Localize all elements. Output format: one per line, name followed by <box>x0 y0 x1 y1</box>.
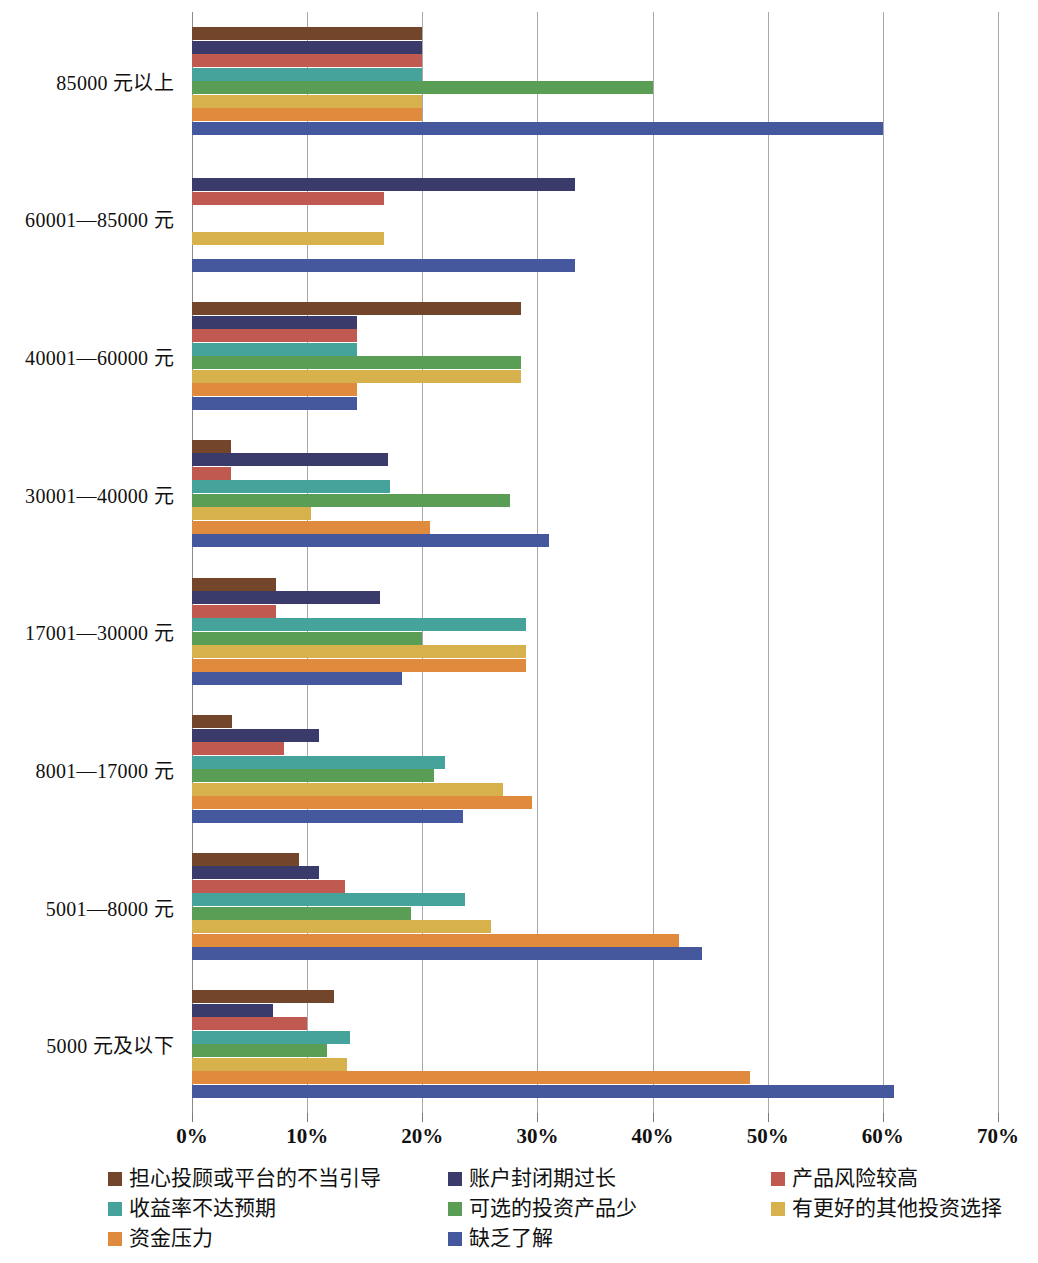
bar <box>192 853 299 866</box>
bar <box>192 343 357 356</box>
bar <box>192 756 445 769</box>
legend-label: 缺乏了解 <box>469 1228 553 1249</box>
bar <box>192 232 384 245</box>
bar <box>192 866 319 879</box>
y-axis-category-label: 40001—60000 元 <box>25 342 174 371</box>
x-axis-tick-label: 50% <box>747 1124 789 1149</box>
legend-row: 收益率不达预期可选的投资产品少有更好的其他投资选择 <box>108 1198 1028 1228</box>
bar <box>192 947 702 960</box>
bar <box>192 397 357 410</box>
legend-label: 有更好的其他投资选择 <box>792 1198 1002 1219</box>
bar <box>192 742 284 755</box>
y-axis-category-labels: 85000 元以上60001—85000 元40001—60000 元30001… <box>0 12 182 1113</box>
bar <box>192 715 232 728</box>
bar <box>192 783 503 796</box>
bar <box>192 316 357 329</box>
bar <box>192 1031 350 1044</box>
bar-group <box>192 425 998 563</box>
bar <box>192 329 357 342</box>
bar <box>192 494 510 507</box>
y-axis-category-label: 60001—85000 元 <box>25 204 174 233</box>
x-tick-mark <box>192 1113 193 1122</box>
legend-label: 产品风险较高 <box>792 1168 918 1189</box>
legend-color-swatch-icon <box>108 1202 122 1216</box>
bar <box>192 769 434 782</box>
bar <box>192 880 345 893</box>
legend-row: 资金压力缺乏了解 <box>108 1228 1028 1258</box>
x-tick-mark <box>998 1113 999 1122</box>
bar <box>192 480 390 493</box>
bar <box>192 907 411 920</box>
bar-chart: 85000 元以上60001—85000 元40001—60000 元30001… <box>0 0 1038 1263</box>
bar <box>192 578 276 591</box>
bar <box>192 1004 273 1017</box>
bar <box>192 534 549 547</box>
plot-area <box>192 12 998 1113</box>
legend-item[interactable]: 产品风险较高 <box>771 1168 918 1189</box>
legend-item[interactable]: 缺乏了解 <box>448 1228 553 1249</box>
bar <box>192 259 575 272</box>
bar <box>192 659 526 672</box>
legend-row: 担心投顾或平台的不当引导账户封闭期过长产品风险较高 <box>108 1168 1028 1198</box>
y-axis-category-label: 85000 元以上 <box>56 67 174 96</box>
bar <box>192 618 526 631</box>
x-axis-tick-label: 70% <box>977 1124 1019 1149</box>
bar <box>192 440 231 453</box>
bar <box>192 54 422 67</box>
bar <box>192 1044 327 1057</box>
legend-item[interactable]: 资金压力 <box>108 1228 213 1249</box>
bar <box>192 370 521 383</box>
y-axis-category-label: 30001—40000 元 <box>25 480 174 509</box>
legend-item[interactable]: 可选的投资产品少 <box>448 1198 637 1219</box>
x-tick-mark <box>307 1113 308 1122</box>
bar <box>192 990 334 1003</box>
bar-group <box>192 12 998 150</box>
x-axis-tick-label: 40% <box>632 1124 674 1149</box>
x-axis-tick-label: 20% <box>401 1124 443 1149</box>
legend-color-swatch-icon <box>108 1232 122 1246</box>
bar <box>192 521 430 534</box>
bar <box>192 632 422 645</box>
bar <box>192 81 653 94</box>
bar <box>192 178 575 191</box>
legend-label: 账户封闭期过长 <box>469 1168 616 1189</box>
bar <box>192 192 384 205</box>
x-axis-tick-label: 10% <box>286 1124 328 1149</box>
legend-color-swatch-icon <box>108 1172 122 1186</box>
legend-label: 收益率不达预期 <box>129 1198 276 1219</box>
bar-group <box>192 838 998 976</box>
x-axis-tick-label: 0% <box>176 1124 208 1149</box>
legend-color-swatch-icon <box>771 1172 785 1186</box>
bar-group <box>192 975 998 1113</box>
bar <box>192 507 311 520</box>
bar <box>192 467 231 480</box>
legend-item[interactable]: 担心投顾或平台的不当引导 <box>108 1168 381 1189</box>
bar <box>192 605 276 618</box>
bar <box>192 1071 750 1084</box>
bar-group <box>192 700 998 838</box>
bar <box>192 645 526 658</box>
x-axis-tick-labels: 0%10%20%30%40%50%60%70% <box>0 1124 1038 1158</box>
bar <box>192 934 679 947</box>
legend-item[interactable]: 有更好的其他投资选择 <box>771 1198 1002 1219</box>
bar <box>192 95 422 108</box>
legend-color-swatch-icon <box>448 1202 462 1216</box>
bar <box>192 1017 307 1030</box>
bar <box>192 920 491 933</box>
bar <box>192 122 883 135</box>
legend-color-swatch-icon <box>448 1172 462 1186</box>
bar <box>192 356 521 369</box>
bar <box>192 108 422 121</box>
bar <box>192 672 402 685</box>
legend-item[interactable]: 收益率不达预期 <box>108 1198 276 1219</box>
x-axis-tick-label: 60% <box>862 1124 904 1149</box>
chart-legend: 担心投顾或平台的不当引导账户封闭期过长产品风险较高收益率不达预期可选的投资产品少… <box>108 1168 1028 1260</box>
y-axis-category-label: 17001—30000 元 <box>25 617 174 646</box>
legend-item[interactable]: 账户封闭期过长 <box>448 1168 616 1189</box>
bar <box>192 810 463 823</box>
bar <box>192 41 422 54</box>
bar-group <box>192 150 998 288</box>
bar-group <box>192 563 998 701</box>
gridline-70pct <box>998 12 999 1113</box>
legend-color-swatch-icon <box>771 1202 785 1216</box>
